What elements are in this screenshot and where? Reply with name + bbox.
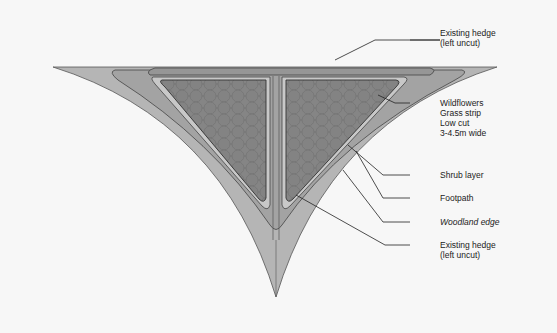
label-existing-hedge-bottom: Existing hedge (left uncut) xyxy=(440,240,496,260)
woodland-corner-diagram xyxy=(0,0,557,333)
label-line: Existing hedge xyxy=(440,28,496,38)
label-line: Shrub layer xyxy=(440,170,483,180)
shrub-layer-left xyxy=(161,80,266,201)
label-line: (left uncut) xyxy=(440,250,496,260)
label-line: Woodland edge xyxy=(440,217,500,227)
label-wildflowers: Wildflowers Grass strip Low cut 3-4.5m w… xyxy=(440,98,486,138)
label-line: Existing hedge xyxy=(440,240,496,250)
label-woodland-edge: Woodland edge xyxy=(440,217,500,227)
label-line: (left uncut) xyxy=(440,38,496,48)
existing-hedge-top-area xyxy=(148,68,434,75)
label-line: Footpath xyxy=(440,193,474,203)
label-line: Wildflowers xyxy=(440,98,486,108)
label-existing-hedge-top: Existing hedge (left uncut) xyxy=(440,28,496,48)
label-shrub-layer: Shrub layer xyxy=(440,170,483,180)
label-line: Low cut xyxy=(440,118,486,128)
label-line: 3-4.5m wide xyxy=(440,128,486,138)
label-line: Grass strip xyxy=(440,108,486,118)
label-footpath: Footpath xyxy=(440,193,474,203)
shrub-layer-right xyxy=(286,80,399,201)
